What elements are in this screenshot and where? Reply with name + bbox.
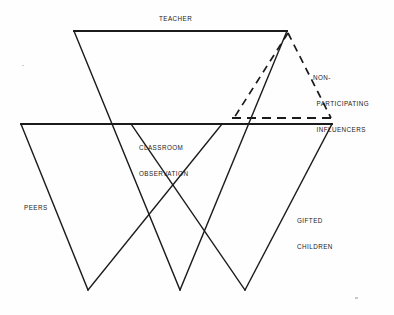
- diagram-canvas: TEACHER CLASSROOM OBSERVATION PEERS GIFT…: [0, 0, 394, 315]
- label-gifted-children: GIFTED CHILDREN: [297, 200, 333, 269]
- label-non-participating-influencers: NON- PARTICIPATING INFLUENCERS: [313, 57, 369, 152]
- label-non-participating-influencers-line3: INFLUENCERS: [313, 126, 369, 135]
- label-gifted-children-line2: CHILDREN: [297, 243, 333, 252]
- non-participating-left-edge: [234, 33, 288, 118]
- label-classroom-observation: CLASSROOM OBSERVATION: [139, 127, 188, 196]
- label-classroom-observation-line1: CLASSROOM: [139, 144, 188, 153]
- peers-triangle: [21, 124, 222, 290]
- label-non-participating-influencers-line2: PARTICIPATING: [313, 100, 369, 109]
- label-non-participating-influencers-line1: NON-: [313, 74, 369, 83]
- label-peers: PEERS: [24, 204, 48, 213]
- label-gifted-children-line1: GIFTED: [297, 217, 333, 226]
- diagram-svg: [0, 0, 394, 315]
- scan-speck-bottom-right: [355, 297, 358, 299]
- label-teacher: TEACHER: [159, 15, 192, 24]
- scan-speck-left: [22, 65, 24, 66]
- label-classroom-observation-line2: OBSERVATION: [139, 170, 188, 179]
- teacher-right-edge: [180, 31, 287, 290]
